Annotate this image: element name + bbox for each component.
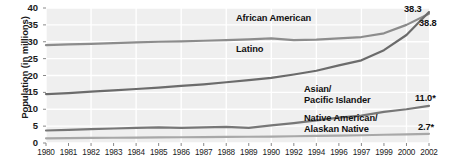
asian-pacific-islander-label: Asian/ Pacific Islander	[304, 84, 371, 105]
african-american-label: African American	[236, 13, 311, 24]
population-line-chart: Population (in millions) 051015202530354…	[0, 0, 453, 168]
native-american-end-value: 2.7*	[418, 122, 434, 132]
latino-end-value: 38.3	[404, 4, 422, 14]
african-american-end-value: 38.8	[419, 18, 437, 28]
asian-pacific-islander-end-value: 11.0*	[415, 93, 436, 103]
native-american-label: Native American/ Alaskan Native	[304, 113, 378, 134]
latino-label: Latino	[236, 44, 263, 55]
plot-area	[0, 0, 453, 168]
